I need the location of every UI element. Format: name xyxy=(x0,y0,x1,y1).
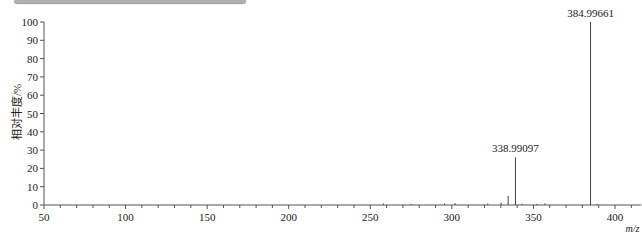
x-tick-label: 200 xyxy=(280,211,297,223)
x-tick-label: 300 xyxy=(444,211,461,223)
x-tick-label: 400 xyxy=(607,211,624,223)
x-tick-label: 150 xyxy=(199,211,216,223)
y-tick-label: 30 xyxy=(27,144,39,156)
y-tick-label: 70 xyxy=(27,71,39,83)
peaks xyxy=(383,22,597,205)
y-tick-label: 90 xyxy=(27,34,39,46)
y-tick-label: 50 xyxy=(27,108,39,120)
x-tick-label: 350 xyxy=(525,211,542,223)
peak-label: 384.99661 xyxy=(567,7,614,19)
y-tick-label: 10 xyxy=(27,181,39,193)
y-tick-label: 0 xyxy=(33,199,39,211)
x-tick-label: 50 xyxy=(39,211,51,223)
peak-labels: 384.99661338.99097 xyxy=(492,7,614,154)
x-tick-label: 100 xyxy=(117,211,134,223)
y-tick-label: 40 xyxy=(27,126,39,138)
peak-label: 338.99097 xyxy=(492,142,539,154)
y-axis-label: 相对丰度/% xyxy=(8,84,24,140)
mass-spectrum-chart: 0102030405060708090100501001502002503003… xyxy=(0,0,642,243)
x-tick-label: 250 xyxy=(362,211,379,223)
axes: 0102030405060708090100501001502002503003… xyxy=(22,16,642,234)
y-tick-label: 20 xyxy=(27,162,39,174)
y-tick-label: 60 xyxy=(27,89,39,101)
x-axis-label: m/z xyxy=(625,223,639,234)
y-tick-label: 100 xyxy=(22,16,39,28)
y-tick-label: 80 xyxy=(27,53,39,65)
